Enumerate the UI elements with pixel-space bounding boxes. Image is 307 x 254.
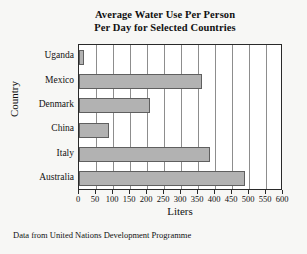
y-tick-label-italy: Italy <box>6 148 78 159</box>
bars-layer <box>79 45 281 189</box>
x-tick-label: 600 <box>270 194 294 204</box>
chart-title-line-1: Average Water Use Per Person <box>60 8 270 21</box>
bar-row <box>79 123 281 138</box>
source-footnote: Data from United Nations Development Pro… <box>13 230 191 241</box>
chart-page: Average Water Use Per Person Per Day for… <box>0 0 307 254</box>
bar-uganda <box>79 50 84 65</box>
chart-title-line-2: Per Day for Selected Countries <box>60 21 270 34</box>
y-tick-label-uganda: Uganda <box>6 50 78 61</box>
bar-china <box>79 123 109 138</box>
bar-australia <box>79 171 245 186</box>
y-axis-title: Country <box>8 64 20 134</box>
x-axis-title: Liters <box>78 205 282 218</box>
bar-row <box>79 74 281 89</box>
bar-row <box>79 50 281 65</box>
chart-title: Average Water Use Per Person Per Day for… <box>60 8 270 34</box>
y-tick-label-australia: Australia <box>6 172 78 183</box>
plot-area <box>78 44 282 190</box>
bar-row <box>79 171 281 186</box>
bar-mexico <box>79 74 202 89</box>
bar-denmark <box>79 98 150 113</box>
bar-italy <box>79 147 210 162</box>
bar-row <box>79 147 281 162</box>
bar-row <box>79 98 281 113</box>
